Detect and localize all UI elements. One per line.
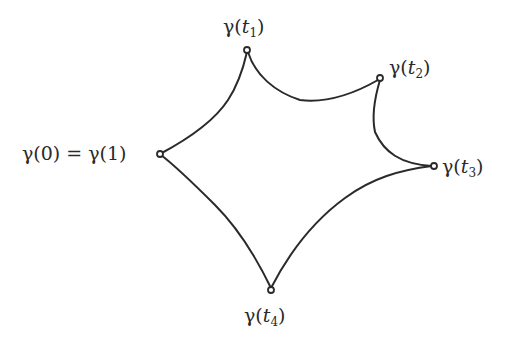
label-close: ) <box>423 56 430 78</box>
point-marker-p0 <box>157 151 163 157</box>
label-sub: 2 <box>415 67 423 81</box>
label-func: γ( <box>244 304 263 326</box>
curve-segment-t1-t2 <box>248 52 378 101</box>
label-gamma-0-eq-gamma-1: γ(0) = γ(1) <box>22 144 127 163</box>
label-func: γ( <box>223 15 242 37</box>
curve-segment-t2-t3 <box>374 80 432 166</box>
label-close: ) <box>257 15 264 37</box>
label-gamma-t4: γ(t4) <box>244 306 285 328</box>
label-func: γ( <box>389 56 408 78</box>
label-close: ) <box>476 155 483 177</box>
point-marker-t4 <box>268 287 274 293</box>
label-gamma-t2: γ(t2) <box>389 58 430 80</box>
label-text: γ(0) = γ(1) <box>22 142 127 164</box>
label-sub: 1 <box>249 26 257 40</box>
label-gamma-t3: γ(t3) <box>442 157 483 179</box>
label-sub: 3 <box>468 166 476 180</box>
curve-segment-t3-t4 <box>271 166 432 288</box>
point-marker-t2 <box>377 75 383 81</box>
label-sub: 4 <box>270 315 278 329</box>
label-gamma-t1: γ(t1) <box>223 17 264 39</box>
curve-segment-0-t1 <box>160 52 247 154</box>
point-marker-t1 <box>244 47 250 53</box>
point-marker-t3 <box>431 163 437 169</box>
label-close: ) <box>278 304 285 326</box>
label-func: γ( <box>442 155 461 177</box>
curve-segment-t4-0 <box>161 155 271 288</box>
